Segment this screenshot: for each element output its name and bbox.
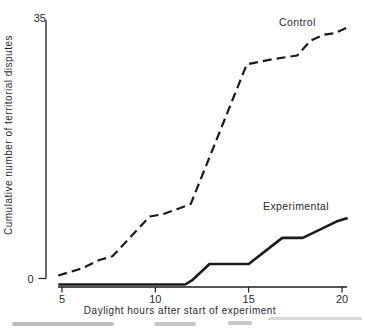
series-label-control: Control — [279, 16, 316, 28]
series-label-experimental: Experimental — [263, 200, 329, 212]
cropped-caption-fragment — [268, 317, 362, 320]
x-tick-label-20: 20 — [336, 293, 348, 305]
cropped-caption-fragment — [154, 322, 196, 326]
cropped-caption-fragment — [228, 321, 252, 325]
chart-canvas: 5101520035 — [0, 0, 365, 330]
scanned-line-chart-figure: 5101520035 Cumulative number of territor… — [0, 0, 365, 330]
x-tick-label-15: 15 — [243, 293, 255, 305]
y-tick-label-0: 0 — [27, 273, 33, 285]
y-tick-label-35: 35 — [34, 12, 46, 24]
x-tick-label-5: 5 — [59, 293, 65, 305]
cropped-caption-fragment — [12, 322, 114, 326]
experimental-line — [58, 218, 347, 285]
x-tick-label-10: 10 — [149, 293, 161, 305]
y-axis-title: Cumulative number of territorial dispute… — [3, 17, 14, 253]
x-axis-title: Daylight hours after start of experiment — [40, 305, 320, 316]
